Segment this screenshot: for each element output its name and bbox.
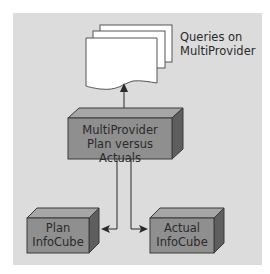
plan-cube-line2: InfoCube [27,235,89,249]
plan-cube-label: Plan InfoCube [27,221,89,249]
connector-to-plan [101,159,117,233]
multiprovider-subtitle: Plan versus Actuals [68,137,172,165]
multiprovider-title: MultiProvider [68,123,172,137]
plan-cube-line1: Plan [27,221,89,235]
connector-to-actual [131,159,148,233]
queries-label-line1: Queries on [180,30,255,44]
document-stack-icon [86,25,172,89]
arrow-up-icon [120,83,128,109]
actual-cube-line1: Actual [150,221,214,235]
actual-cube-line2: InfoCube [150,235,214,249]
queries-label-line2: MultiProvider [180,44,255,58]
queries-label: Queries on MultiProvider [180,30,255,58]
actual-cube-label: Actual InfoCube [150,221,214,249]
multiprovider-label: MultiProvider Plan versus Actuals [68,123,172,165]
